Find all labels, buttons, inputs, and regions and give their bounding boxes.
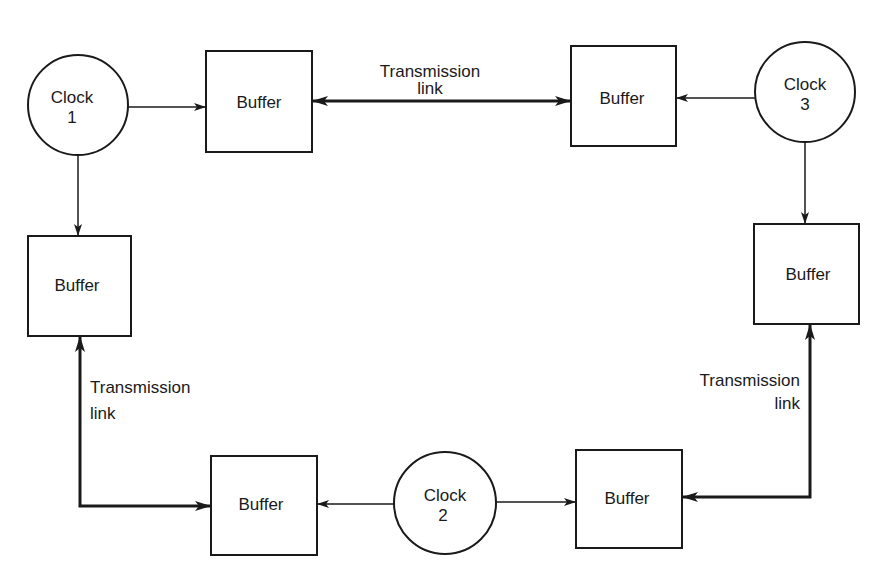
clock-3-label: Clock [784, 75, 827, 94]
buffer-left: Buffer [28, 236, 131, 336]
buffer-top-right-label: Buffer [599, 89, 644, 108]
buffer-top-right: Buffer [571, 46, 676, 146]
clock-1-node: Clock 1 [28, 55, 128, 155]
clock-2-label: Clock [424, 486, 467, 505]
transmission-link-top-label-2: link [417, 79, 443, 98]
buffer-left-label: Buffer [54, 276, 99, 295]
buffer-bottom-left: Buffer [211, 456, 317, 555]
buffer-right-label: Buffer [785, 265, 830, 284]
transmission-link-left-label-1: Transmission [90, 378, 190, 397]
buffer-bottom-right: Buffer [576, 450, 682, 548]
transmission-link-left-label-2: link [90, 404, 116, 423]
clock-buffer-diagram: Clock 1 Clock 3 Clock 2 Buffer Buffer Bu… [0, 0, 884, 583]
buffer-top-left: Buffer [206, 51, 312, 152]
clock-2-number: 2 [438, 506, 447, 525]
buffer-bottom-left-label: Buffer [238, 495, 283, 514]
clock-1-number: 1 [67, 108, 76, 127]
buffer-top-left-label: Buffer [236, 93, 281, 112]
buffer-bottom-right-label: Buffer [604, 489, 649, 508]
clock-3-number: 3 [800, 95, 809, 114]
clock-3-node: Clock 3 [755, 42, 855, 142]
clock-2-node: Clock 2 [394, 452, 496, 554]
transmission-link-right-label-2: link [774, 394, 800, 413]
transmission-link-right-label-1: Transmission [700, 371, 800, 390]
clock-1-label: Clock [51, 88, 94, 107]
buffer-right: Buffer [754, 224, 859, 324]
